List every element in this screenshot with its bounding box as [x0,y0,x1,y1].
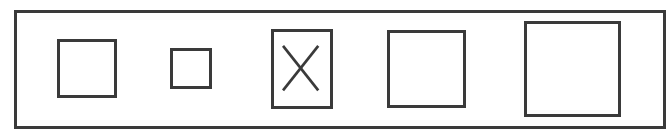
shape-square-4 [387,30,466,108]
shape-square-small-2 [170,48,212,89]
shape-square-large-5 [524,21,621,117]
shape-rectangle-crossed-3 [271,29,333,109]
x-mark-icon [274,32,330,106]
shape-square-1 [57,39,117,98]
